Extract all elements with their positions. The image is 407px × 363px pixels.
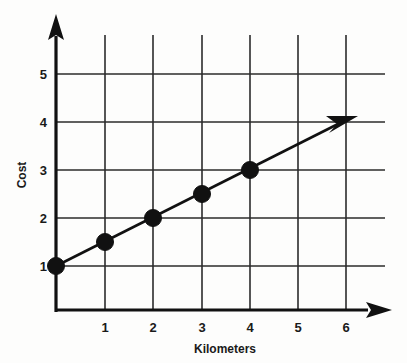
data-point xyxy=(97,234,114,251)
y-tick-label-3: 3 xyxy=(40,163,47,178)
data-point xyxy=(48,258,65,275)
x-tick-label-1: 1 xyxy=(101,320,108,335)
x-tick-label-4: 4 xyxy=(246,320,254,335)
y-tick-label-2: 2 xyxy=(40,211,47,226)
x-tick-label-6: 6 xyxy=(342,320,349,335)
x-tick-label-5: 5 xyxy=(294,320,301,335)
x-tick-label-2: 2 xyxy=(149,320,156,335)
y-tick-label-4: 4 xyxy=(40,115,48,130)
y-tick-label-5: 5 xyxy=(40,67,47,82)
y-axis-title: Cost xyxy=(15,162,29,189)
data-point xyxy=(145,210,162,227)
x-tick-label-3: 3 xyxy=(198,320,205,335)
data-point xyxy=(242,162,259,179)
x-axis-title: Kilometers xyxy=(194,342,256,356)
data-point xyxy=(194,186,211,203)
y-tick-label-1: 1 xyxy=(40,259,47,274)
cost-vs-kilometers-chart: 5 4 3 2 1 1 2 3 4 5 6 Kilometers Cost xyxy=(0,0,407,363)
chart-container: 5 4 3 2 1 1 2 3 4 5 6 Kilometers Cost xyxy=(0,0,407,363)
